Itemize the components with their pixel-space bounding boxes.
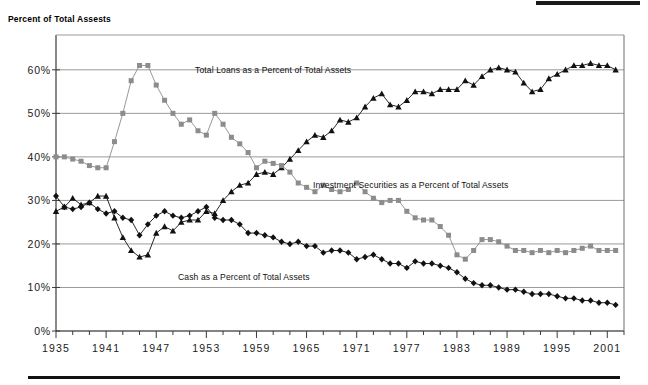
data-point <box>446 265 452 271</box>
data-point <box>513 248 518 253</box>
data-point <box>404 209 409 214</box>
data-point <box>579 297 585 303</box>
data-point <box>413 215 418 220</box>
data-point <box>371 196 376 201</box>
data-point <box>546 291 552 297</box>
series-total-loans <box>53 60 619 260</box>
data-point <box>303 138 309 144</box>
footer-rule <box>28 376 620 379</box>
data-point <box>604 300 610 306</box>
data-point <box>337 117 343 123</box>
data-point <box>421 218 426 223</box>
data-point <box>287 170 292 175</box>
data-point <box>462 78 468 84</box>
data-point <box>596 300 602 306</box>
data-point <box>546 75 552 81</box>
data-point <box>571 295 577 301</box>
data-point <box>555 248 560 253</box>
data-point <box>538 248 543 253</box>
data-point <box>53 208 59 214</box>
data-point <box>196 128 201 133</box>
data-point <box>170 212 176 218</box>
data-point <box>287 241 293 247</box>
data-point <box>596 248 601 253</box>
data-point <box>429 218 434 223</box>
y-tick-label-60%: 60% <box>28 64 51 76</box>
y-tick-label-10%: 10% <box>28 281 51 293</box>
data-point <box>128 247 134 253</box>
data-point <box>496 239 501 244</box>
data-point <box>496 284 502 290</box>
data-point <box>379 256 385 262</box>
data-point <box>462 276 468 282</box>
data-point <box>237 141 242 146</box>
x-tick-label-1989: 1989 <box>493 342 521 354</box>
data-point <box>70 157 75 162</box>
loans-label: Total Loans as a Percent of Total Assets <box>195 65 351 75</box>
data-point <box>120 111 125 116</box>
data-point <box>320 249 326 255</box>
chart-svg: 0%10%20%30%40%50%60% 1935194119471953195… <box>0 0 648 385</box>
data-point <box>496 64 502 70</box>
series-annotations: Total Loans as a Percent of Total Assets… <box>178 65 508 282</box>
data-point <box>471 248 476 253</box>
y-tick-label-40%: 40% <box>28 151 51 163</box>
data-point <box>145 63 150 68</box>
data-point <box>254 165 259 170</box>
data-point <box>396 198 401 203</box>
y-axis-tick-labels: 0%10%20%30%40%50%60% <box>28 64 60 337</box>
data-point <box>571 248 576 253</box>
data-point <box>95 165 100 170</box>
data-point <box>271 161 276 166</box>
data-point <box>54 154 59 159</box>
data-point <box>220 217 226 223</box>
data-point <box>530 250 535 255</box>
x-tick-label-2001: 2001 <box>593 342 621 354</box>
data-point <box>454 252 459 257</box>
data-point <box>563 295 569 301</box>
data-point <box>70 195 76 201</box>
data-point <box>153 230 159 236</box>
data-point <box>228 189 234 195</box>
data-point <box>529 291 535 297</box>
x-tick-label-1995: 1995 <box>543 342 571 354</box>
data-point <box>78 204 84 210</box>
x-tick-label-1959: 1959 <box>242 342 270 354</box>
data-point <box>613 302 619 308</box>
data-point <box>246 150 251 155</box>
data-point <box>437 263 443 269</box>
data-point <box>563 250 568 255</box>
gridlines <box>56 70 624 331</box>
data-point <box>87 163 92 168</box>
data-point <box>178 215 184 221</box>
x-axis-tick-labels: 1935194119471953195919651971197719831989… <box>42 342 621 354</box>
x-axis-ticks <box>56 331 624 338</box>
data-point <box>120 234 126 240</box>
data-point <box>95 206 101 212</box>
data-point <box>387 260 393 266</box>
data-point <box>580 246 585 251</box>
y-tick-label-30%: 30% <box>28 194 51 206</box>
data-point <box>229 135 234 140</box>
series-line <box>56 65 616 259</box>
data-point <box>104 165 109 170</box>
chart-canvas: 0%10%20%30%40%50%60% 1935194119471953195… <box>0 0 648 385</box>
data-point <box>70 206 76 212</box>
data-point <box>587 60 593 66</box>
data-point <box>446 233 451 238</box>
data-point <box>145 252 151 258</box>
data-point <box>312 132 318 138</box>
y-tick-label-20%: 20% <box>28 238 51 250</box>
data-point <box>379 200 384 205</box>
y-tick-label-50%: 50% <box>28 107 51 119</box>
data-point <box>404 265 410 271</box>
data-point <box>179 122 184 127</box>
x-tick-label-1983: 1983 <box>443 342 471 354</box>
data-point <box>111 215 117 221</box>
data-point <box>370 95 376 101</box>
data-point <box>170 111 175 116</box>
data-point <box>212 111 217 116</box>
x-tick-label-1953: 1953 <box>192 342 220 354</box>
data-point <box>588 244 593 249</box>
data-point <box>362 254 368 260</box>
